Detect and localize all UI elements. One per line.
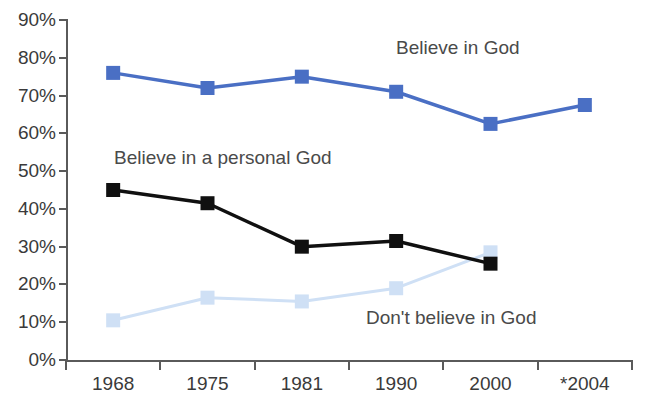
data-point-marker (389, 85, 403, 99)
chart-container: 0%10%20%30%40%50%60%70%80%90% 1968197519… (0, 0, 648, 416)
data-point-marker (389, 234, 403, 248)
data-point-marker (484, 257, 498, 271)
data-point-marker (484, 117, 498, 131)
series-believe-in-a-personal-god (106, 183, 497, 271)
data-point-marker (106, 183, 120, 197)
annotation-dont-believe-in-god: Don't believe in God (366, 308, 537, 327)
data-point-marker (106, 66, 120, 80)
data-point-marker (201, 81, 215, 95)
annotation-believe-in-god: Believe in God (396, 38, 520, 57)
data-point-marker (106, 313, 120, 327)
data-point-marker (295, 294, 309, 308)
data-point-marker (389, 281, 403, 295)
annotation-believe-in-a-personal-god: Believe in a personal God (114, 148, 332, 167)
data-point-marker (578, 98, 592, 112)
data-point-marker (201, 291, 215, 305)
plot-area (0, 0, 648, 416)
series-line (113, 73, 585, 124)
data-point-marker (295, 240, 309, 254)
footnote-text (6, 398, 506, 412)
data-point-marker (295, 70, 309, 84)
series-believe-in-god (106, 66, 592, 131)
data-point-marker (201, 196, 215, 210)
